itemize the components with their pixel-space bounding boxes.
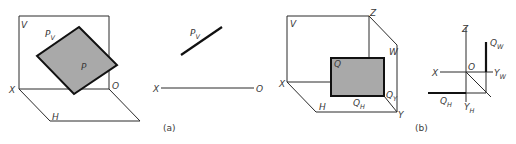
label-w: W bbox=[389, 47, 399, 57]
h-plane-outline bbox=[19, 89, 140, 121]
label-x: X bbox=[431, 68, 439, 78]
label-z: Z bbox=[461, 24, 469, 34]
label-yh: YH bbox=[464, 102, 475, 115]
projection-diagram: V PV P X O H PV X O (a) V Z W Q X H QH bbox=[0, 0, 516, 144]
label-o: O bbox=[468, 62, 475, 72]
label-o: O bbox=[112, 81, 119, 91]
label-h: H bbox=[319, 102, 326, 112]
label-y: Y bbox=[398, 110, 405, 120]
caption-b: (b) bbox=[415, 123, 428, 133]
label-qh: QH bbox=[440, 96, 452, 109]
label-h: H bbox=[52, 112, 59, 122]
label-q: Q bbox=[334, 59, 341, 69]
label-pv: PV bbox=[190, 28, 200, 41]
label-v: V bbox=[21, 20, 28, 30]
panel-b-pictorial: V Z W Q X H QH QY Y bbox=[278, 8, 405, 120]
panel-a-pictorial: V PV P X O H bbox=[8, 16, 140, 122]
label-yw: YW bbox=[494, 68, 507, 81]
label-x: X bbox=[278, 79, 286, 89]
caption-a: (a) bbox=[163, 123, 176, 133]
label-x: X bbox=[152, 84, 160, 94]
panel-a-projection: PV X O bbox=[152, 27, 263, 94]
label-qh: QH bbox=[353, 98, 365, 111]
label-qw: QW bbox=[490, 38, 504, 51]
pv-trace bbox=[181, 27, 222, 55]
label-pv: PV bbox=[45, 29, 55, 42]
label-v: V bbox=[290, 19, 297, 29]
panel-b-projection: Z X O YW YH QW QH bbox=[428, 24, 507, 115]
label-x: X bbox=[8, 85, 16, 95]
label-o: O bbox=[256, 84, 263, 94]
label-z: Z bbox=[369, 8, 377, 18]
label-p: P bbox=[81, 62, 87, 72]
